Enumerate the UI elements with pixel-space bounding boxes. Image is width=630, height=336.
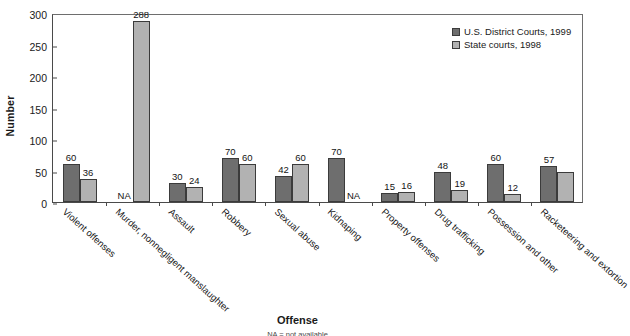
- bar-0: [169, 183, 186, 202]
- bar-1: [451, 190, 468, 202]
- legend-item: U.S. District Courts, 1999: [452, 25, 571, 38]
- bar-1: [557, 172, 574, 202]
- bar-0: [540, 166, 557, 202]
- bar-value-label: 57: [544, 154, 555, 165]
- bar-value-label: 48: [437, 160, 448, 171]
- bar-value-label: 60: [295, 152, 306, 163]
- legend-label: U.S. District Courts, 1999: [464, 25, 571, 38]
- y-axis-tick-label: 250: [1, 41, 53, 53]
- bar-1: [292, 164, 309, 202]
- bar-0: [381, 193, 398, 202]
- legend-swatch-icon: [452, 41, 460, 49]
- bar-group: 7060: [212, 15, 265, 202]
- x-axis-category-label: Sexual abuse: [273, 206, 323, 253]
- y-axis-tick-label: 200: [1, 72, 53, 84]
- bar-value-label: 36: [83, 167, 94, 178]
- bar-1: [186, 187, 203, 202]
- x-axis-category-label: Drug trafficking: [432, 206, 487, 257]
- bar-group: 4260: [265, 15, 318, 202]
- x-axis-category-label: Kidnaping: [326, 206, 365, 242]
- bar-value-label: 70: [331, 146, 342, 157]
- bar-value-label: 70: [225, 146, 236, 157]
- bar-0: [487, 164, 504, 202]
- bar-0: [63, 164, 80, 202]
- y-axis-tick-label: 100: [1, 135, 53, 147]
- x-axis-title: Offense: [0, 314, 595, 326]
- bar-value-label: 15: [384, 181, 395, 192]
- bar-1: [133, 21, 150, 202]
- bar-1: [398, 192, 415, 202]
- x-axis-category-label: Assault: [167, 206, 198, 235]
- x-axis-category-label: Robbery: [220, 206, 254, 238]
- legend-label: State courts, 1998: [464, 38, 541, 51]
- y-axis-tick-label: 300: [1, 9, 53, 21]
- bar-group: 70NA: [319, 15, 372, 202]
- chart-footnote-label: NA = not available: [267, 330, 328, 336]
- legend-swatch-icon: [452, 28, 460, 36]
- bar-value-label: 60: [242, 152, 253, 163]
- bar-value-label: 60: [66, 152, 77, 163]
- bar-value-label: 42: [278, 164, 289, 175]
- bar-value-label: 12: [508, 182, 519, 193]
- bar-value-label: 288: [133, 9, 149, 20]
- bar-1: [80, 179, 97, 202]
- x-axis-category-label: Violent offenses: [61, 206, 118, 259]
- bar-value-label: 24: [189, 175, 200, 186]
- bar-0: [222, 158, 239, 202]
- bar-na-label: NA: [118, 190, 131, 201]
- bar-value-label: 30: [172, 171, 183, 182]
- x-axis-category-label: Murder, nonnegligent manslaughter: [114, 206, 232, 314]
- bar-group: 3024: [159, 15, 212, 202]
- chart-footnote: NA = not available: [0, 330, 595, 336]
- bar-1: [504, 194, 521, 202]
- bar-group: 6036: [53, 15, 106, 202]
- x-axis-title-label: Offense: [277, 314, 318, 326]
- bar-value-label: 60: [491, 152, 502, 163]
- bar-0: [275, 176, 292, 202]
- y-axis-tick-mark: [53, 204, 57, 205]
- legend-item: State courts, 1998: [452, 38, 571, 51]
- bar-value-label: 19: [454, 178, 465, 189]
- bar-group: NA288: [106, 15, 159, 202]
- bar-group: 1516: [372, 15, 425, 202]
- bar-na-label: NA: [347, 190, 360, 201]
- y-axis-tick-label: 150: [1, 104, 53, 116]
- x-axis-category-labels: Violent offensesMurder, nonnegligent man…: [0, 206, 595, 326]
- chart-legend: U.S. District Courts, 1999State courts, …: [452, 25, 571, 51]
- x-axis-category-label: Racketeering and extortion: [538, 206, 630, 290]
- bar-1: [239, 164, 256, 202]
- bar-0: [434, 172, 451, 202]
- bar-0: [328, 158, 345, 202]
- y-axis-tick-label: 50: [1, 167, 53, 179]
- bar-value-label: 16: [401, 180, 412, 191]
